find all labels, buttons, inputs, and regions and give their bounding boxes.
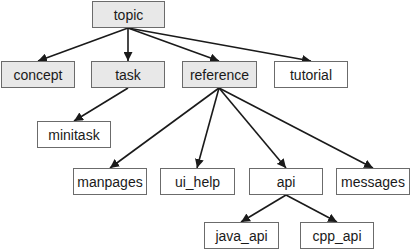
node-tutorial: tutorial <box>274 61 348 88</box>
node-java-api: java_api <box>204 222 279 249</box>
edge-topic-to-tutorial <box>128 28 311 61</box>
edge-reference-to-messages <box>219 88 373 168</box>
node-ui-help: ui_help <box>160 168 235 195</box>
node-topic: topic <box>92 1 165 28</box>
edge-reference-to-ui_help <box>197 88 219 168</box>
node-api: api <box>249 168 323 195</box>
node-minitask: minitask <box>37 121 111 148</box>
node-concept: concept <box>1 61 75 88</box>
edge-topic-to-concept <box>38 28 128 61</box>
node-manpages: manpages <box>73 168 147 195</box>
edge-reference-to-api <box>219 88 286 168</box>
edge-task-to-minitask <box>74 88 128 121</box>
edge-api-to-cpp_api <box>286 195 337 222</box>
node-reference: reference <box>182 61 257 88</box>
node-cpp-api: cpp_api <box>300 222 374 249</box>
node-task: task <box>91 61 165 88</box>
node-messages: messages <box>336 168 410 195</box>
edge-api-to-java_api <box>241 195 286 222</box>
edge-reference-to-manpages <box>110 88 219 168</box>
edge-topic-to-reference <box>128 28 219 61</box>
